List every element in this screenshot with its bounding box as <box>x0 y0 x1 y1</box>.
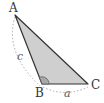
vertex-label-b: B <box>35 86 44 100</box>
side-label-c: c <box>17 50 23 63</box>
vertex-label-a: A <box>8 1 18 15</box>
triangle-diagram: A B C c a <box>0 0 104 103</box>
triangle-shape <box>15 15 88 84</box>
vertex-label-c: C <box>91 78 100 92</box>
side-label-a: a <box>64 87 71 100</box>
